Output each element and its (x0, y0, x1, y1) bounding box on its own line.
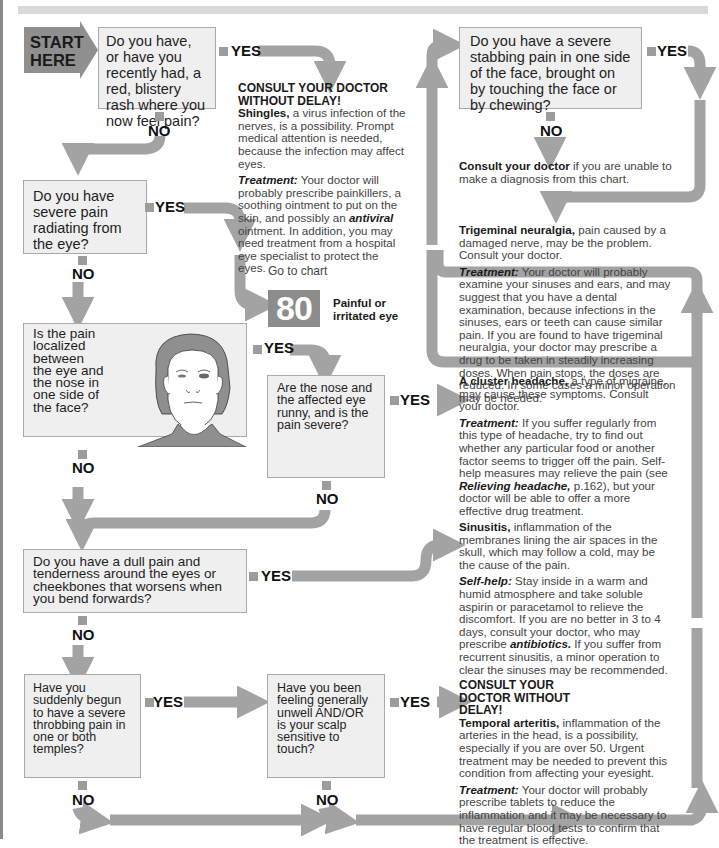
yes-label-q6: YES (153, 693, 183, 710)
no-marker (78, 450, 87, 459)
question-runny-nose[interactable]: Are the nose and the affected eye runny,… (267, 375, 385, 478)
chart-title-line2: irritated eye (333, 310, 398, 323)
consult-doctor-fallback: Consult your doctor if you are unable to… (459, 160, 674, 185)
no-label-q8: NO (540, 122, 563, 139)
self-help-label: Self-help: (459, 574, 512, 587)
no-label-q5: NO (72, 626, 95, 643)
question-text: Do you have a severe stabbing pain in on… (470, 33, 630, 113)
question-text: Do you have a dull pain and tenderness a… (33, 554, 222, 606)
relieving-headache-link[interactable]: Relieving headache, (459, 479, 570, 492)
outcome-title: Trigeminal neuralgia, (459, 223, 575, 236)
question-text: Are the nose and the affected eye runny,… (277, 381, 372, 432)
outcome-temporal-arteritis: CONSULT YOUR DOCTOR WITHOUT DELAY! Tempo… (459, 679, 674, 848)
start-here-label: START HERE (30, 33, 84, 69)
no-marker (155, 112, 164, 121)
yes-marker (647, 47, 656, 56)
no-marker (322, 781, 331, 790)
no-marker (78, 616, 87, 625)
no-label-q6: NO (72, 791, 95, 808)
yes-label-q4: YES (400, 391, 430, 408)
question-eye-pain[interactable]: Do you have severe pain radiating from t… (23, 180, 147, 254)
start-label-line1: START (30, 33, 84, 51)
question-unwell-scalp[interactable]: Have you been feeling generally unwell A… (267, 674, 385, 778)
yes-marker (145, 203, 154, 212)
urgent-warning: CONSULT YOUR DOCTOR WITHOUT DELAY! (238, 81, 388, 108)
yes-label-q7: YES (400, 693, 430, 710)
treatment-text: Your doctor will probably examine your s… (459, 265, 676, 404)
yes-label-q2: YES (155, 198, 185, 215)
treatment-label: Treatment: (459, 265, 519, 278)
outcome-sinusitis: Sinusitis, inflammation of the membranes… (459, 521, 674, 680)
treatment-label: Treatment: (459, 783, 519, 796)
chart-80-badge[interactable]: 80 (268, 290, 320, 327)
yes-label-q1: YES (231, 42, 261, 59)
yes-label-q3: YES (264, 339, 294, 356)
treatment-label: Treatment: (459, 416, 519, 429)
no-label-q4: NO (316, 490, 339, 507)
no-label-q7: NO (316, 791, 339, 808)
outcome-trigeminal-neuralgia: Trigeminal neuralgia, pain caused by a d… (459, 224, 681, 408)
no-label-q2: NO (72, 265, 95, 282)
yes-marker (390, 396, 399, 405)
question-stabbing-pain[interactable]: Do you have a severe stabbing pain in on… (459, 27, 642, 109)
outcome-title: Temporal arteritis, (459, 716, 559, 729)
no-marker (322, 481, 331, 490)
no-marker (78, 256, 87, 265)
yes-marker (390, 698, 399, 707)
treatment-label: Treatment: (238, 173, 298, 186)
question-text: Do you have severe pain radiating from t… (33, 188, 122, 252)
outcome-shingles: CONSULT YOUR DOCTOR WITHOUT DELAY! Shing… (238, 82, 408, 279)
treatment-emphasis: antiviral (349, 211, 393, 224)
question-text: Is the pain localized between the eye an… (33, 328, 105, 414)
question-text: Have you suddenly begun to have a severe… (33, 681, 125, 756)
yes-marker (249, 572, 258, 581)
question-text: Have you been feeling generally unwell A… (277, 681, 368, 756)
question-temple-pain[interactable]: Have you suddenly begun to have a severe… (24, 674, 141, 778)
yes-label-q5: YES (261, 567, 291, 584)
yes-marker (219, 47, 228, 56)
self-help-emphasis: antibiotics. (510, 637, 571, 650)
outcome-title: Shingles, (238, 106, 290, 119)
yes-marker (253, 345, 262, 354)
face-illustration (138, 328, 246, 447)
question-rash[interactable]: Do you have, or have you recently had, a… (98, 27, 216, 109)
goto-chart-title[interactable]: Painful or irritated eye (333, 297, 398, 322)
question-dull-pain[interactable]: Do you have a dull pain and tenderness a… (23, 549, 247, 613)
no-marker (546, 112, 555, 121)
outcome-title: Sinusitis, (459, 520, 511, 533)
start-label-line2: HERE (30, 51, 84, 69)
consult-bold: Consult your doctor (459, 159, 570, 172)
yes-label-q8: YES (657, 42, 687, 59)
no-marker (78, 781, 87, 790)
urgent-warning: CONSULT YOUR DOCTOR WITHOUT DELAY! (459, 679, 599, 717)
no-label-q1: NO (148, 122, 171, 139)
chart-title-line1: Painful or (333, 297, 398, 310)
no-label-q3: NO (72, 459, 95, 476)
goto-chart-label: Go to chart (268, 265, 327, 278)
